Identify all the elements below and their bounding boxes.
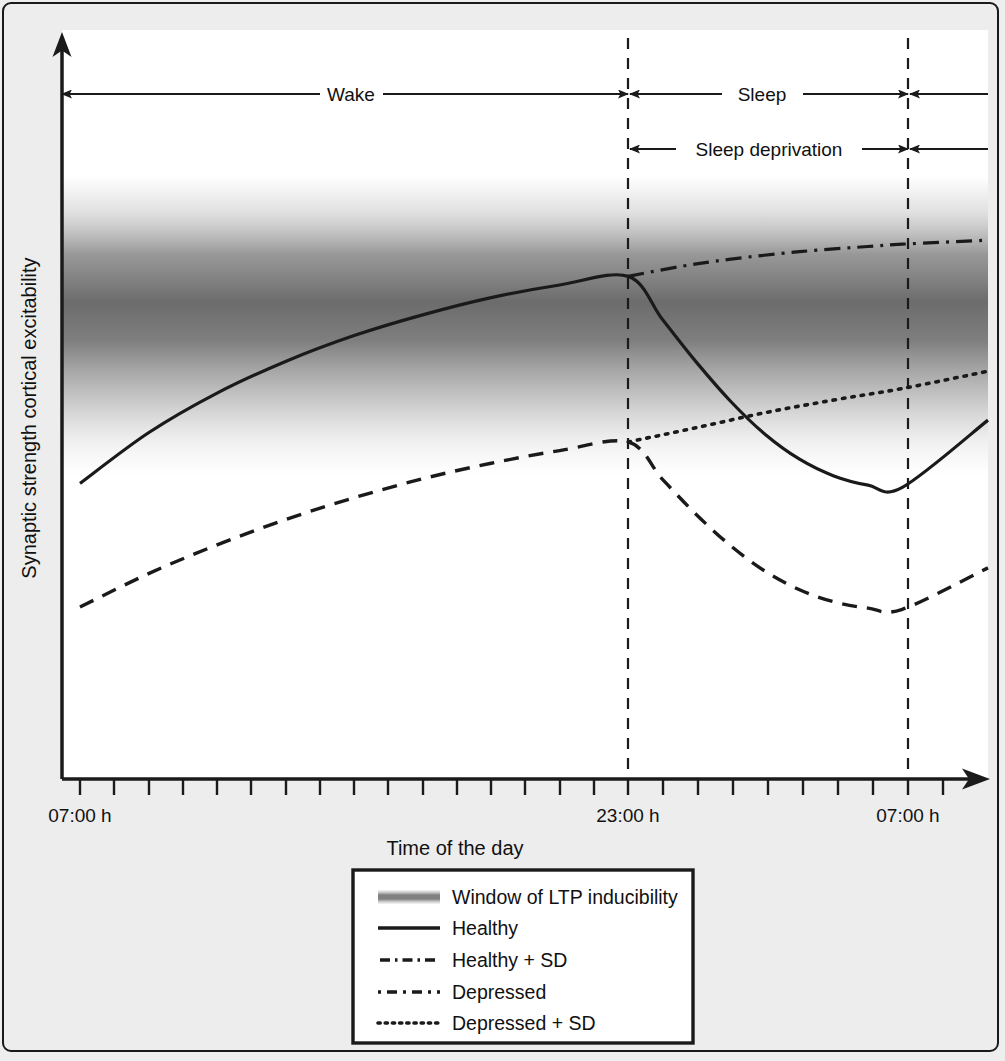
y-axis-title: Synaptic strength cortical excitability <box>18 257 40 578</box>
x-axis-ticks <box>80 779 943 795</box>
legend-label-healthy-sd: Healthy + SD <box>452 949 567 971</box>
chart-legend: Window of LTP inducibility Healthy Healt… <box>353 870 693 1043</box>
legend-label-depressed: Depressed <box>452 981 546 1003</box>
annotation-sleep-deprivation-label: Sleep deprivation <box>696 139 843 160</box>
x-tick-label-2: 07:00 h <box>876 805 939 826</box>
x-axis-title: Time of the day <box>386 837 523 859</box>
legend-swatch-ltp-band <box>378 890 440 904</box>
figure-root: Wake Sleep Sleep deprivation 07:00 h 23:… <box>0 0 1005 1061</box>
legend-label-ltp-band: Window of LTP inducibility <box>452 886 678 908</box>
chart-canvas: Wake Sleep Sleep deprivation 07:00 h 23:… <box>0 0 1005 1061</box>
x-tick-label-0: 07:00 h <box>48 805 111 826</box>
annotation-wake-label: Wake <box>327 84 375 105</box>
legend-label-healthy: Healthy <box>452 917 518 939</box>
legend-label-depressed-sd: Depressed + SD <box>452 1012 596 1034</box>
ltp-inducibility-band <box>63 176 988 476</box>
annotation-sleep-label: Sleep <box>738 84 787 105</box>
x-tick-label-1: 23:00 h <box>596 805 659 826</box>
